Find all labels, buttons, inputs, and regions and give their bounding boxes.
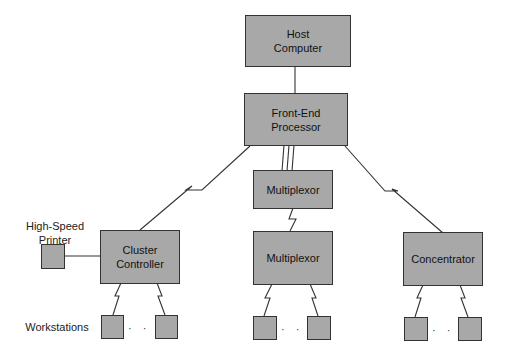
workstations-label: Workstations: [22, 320, 92, 334]
concentrator-node: Concentrator: [403, 232, 483, 286]
workstation-node: [253, 316, 277, 340]
multiplexor-node-lower: Multiplexor: [253, 231, 333, 285]
workstation-node: [307, 316, 331, 340]
multiplexor-node-upper: Multiplexor: [253, 170, 333, 209]
workstation-node: [101, 315, 124, 339]
workstation-node: [404, 317, 428, 341]
cluster-controller-node: Cluster Controller: [100, 230, 180, 284]
workstation-node: [155, 315, 178, 339]
front-end-processor-node: Front-End Processor: [244, 93, 348, 146]
workstation-node: [458, 317, 482, 341]
printer-label: High-Speed Printer: [20, 219, 90, 247]
host-computer-node: Host Computer: [245, 15, 351, 67]
printer-node: [41, 244, 65, 269]
